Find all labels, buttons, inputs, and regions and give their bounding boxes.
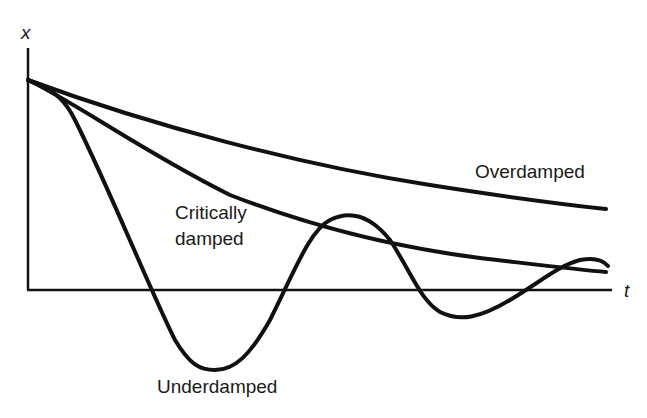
critically-damped-label-line1: Critically [175,202,247,225]
overdamped-label: Overdamped [475,161,585,184]
critically-damped-label-line2: damped [175,228,244,251]
y-axis-label: x [21,22,31,44]
underdamped-label: Underdamped [157,376,277,399]
damping-diagram [0,0,647,418]
x-axis-label: t [624,280,629,302]
overdamped-curve [28,80,606,209]
